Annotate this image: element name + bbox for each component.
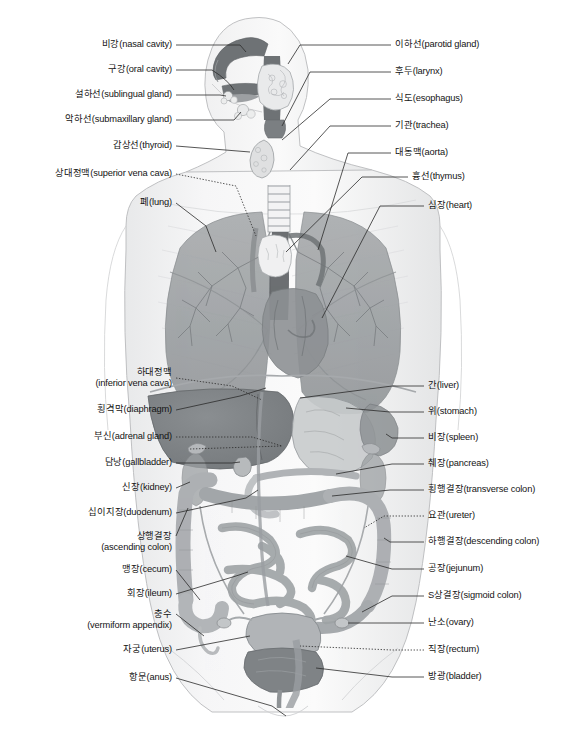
label-inferior-vena-cava-line2: (inferior vena cava): [95, 378, 172, 389]
label-stomach: 위(stomach): [428, 406, 477, 418]
label-ureter: 요관(ureter): [428, 510, 475, 522]
label-thyroid: 갑상선(thyroid): [113, 140, 172, 152]
larynx-organ: [264, 120, 285, 138]
label-cecum: 맹장(cecum): [122, 564, 172, 576]
label-parotid-gland: 이하선(parotid gland): [395, 39, 479, 51]
label-larynx: 후두(larynx): [395, 66, 443, 78]
label-gallbladder: 담낭(gallbladder): [105, 457, 172, 469]
right-arm-edge: [440, 226, 462, 430]
label-vermiform-appendix-line2: (vermiform appendix): [87, 620, 172, 631]
label-uterus: 자궁(uterus): [123, 644, 172, 656]
gallbladder-organ: [233, 457, 251, 477]
label-vermiform-appendix: 충수(vermiform appendix): [87, 609, 172, 631]
label-kidney: 신장(kidney): [122, 482, 172, 494]
label-adrenal-gland: 부신(adrenal gland): [94, 431, 172, 443]
anatomy-diagram: [0, 0, 567, 745]
label-inferior-vena-cava: 하대정맥(inferior vena cava): [95, 367, 172, 389]
label-esophagus: 식도(esophagus): [395, 93, 463, 105]
label-spleen: 비장(spleen): [428, 432, 478, 444]
label-thymus: 흉선(thymus): [412, 171, 465, 183]
label-ovary: 난소(ovary): [428, 617, 474, 629]
label-ascending-colon-line2: (ascending colon): [101, 542, 172, 553]
label-pancreas: 췌장(pancreas): [428, 458, 489, 470]
label-lung: 폐(lung): [140, 197, 172, 209]
left-ovary: [217, 618, 231, 628]
label-ascending-colon-line1: 상행결장: [101, 531, 172, 542]
label-trachea: 기관(trachea): [395, 120, 449, 132]
label-sigmoid-colon: S상결장(sigmoid colon): [428, 590, 521, 602]
label-diaphragm: 횡격막(diaphragm): [97, 404, 172, 416]
right-ovary: [335, 618, 349, 628]
parotid-gland-organ: [257, 64, 293, 110]
label-descending-colon: 하행결장(descending colon): [428, 536, 539, 548]
label-bladder: 방광(bladder): [428, 671, 482, 683]
label-oral-cavity: 구강(oral cavity): [108, 64, 172, 76]
label-superior-vena-cava: 상대정맥(superior vena cava): [55, 168, 172, 180]
label-jejunum: 공장(jejunum): [428, 563, 483, 575]
label-ascending-colon: 상행결장(ascending colon): [101, 531, 172, 553]
label-aorta: 대동맥(aorta): [395, 147, 448, 159]
label-heart: 심장(heart): [428, 200, 472, 212]
label-transverse-colon: 횡행결장(transverse colon): [428, 484, 535, 496]
label-ileum: 회장(ileum): [127, 588, 172, 600]
label-vermiform-appendix-line1: 충수: [87, 609, 172, 620]
label-submaxillary-gland: 악하선(submaxillary gland): [65, 114, 172, 126]
label-sublingual-gland: 설하선(sublingual gland): [75, 89, 172, 101]
label-nasal-cavity: 비강(nasal cavity): [102, 39, 172, 51]
left-arm-edge: [104, 226, 126, 430]
label-liver: 간(liver): [428, 380, 459, 392]
label-rectum: 직장(rectum): [428, 644, 479, 656]
label-inferior-vena-cava-line1: 하대정맥: [95, 367, 172, 378]
thymus-organ: [258, 235, 292, 277]
label-duodenum: 십이지장(duodenum): [88, 507, 172, 519]
label-anus: 항문(anus): [129, 672, 172, 684]
